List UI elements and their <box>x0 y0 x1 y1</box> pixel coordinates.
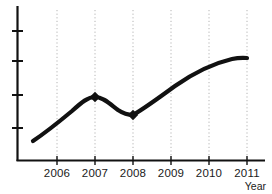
chart-background <box>0 0 272 194</box>
x-label-2008: 2008 <box>120 167 146 179</box>
x-label-2011: 2011 <box>234 167 260 179</box>
x-label-2009: 2009 <box>158 167 184 179</box>
x-label-2007: 2007 <box>82 167 108 179</box>
x-axis-title: Year <box>245 180 267 192</box>
line-chart: 2006 2007 2008 2009 2010 2011 Year <box>0 0 272 194</box>
x-label-2006: 2006 <box>44 167 70 179</box>
chart-canvas: 2006 2007 2008 2009 2010 2011 Year <box>0 0 272 194</box>
x-label-2010: 2010 <box>196 167 222 179</box>
